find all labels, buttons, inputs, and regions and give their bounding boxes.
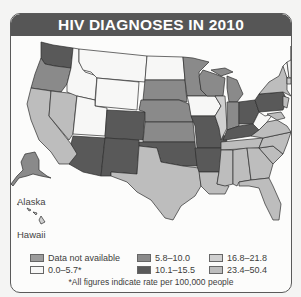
state-NE (139, 100, 193, 122)
legend-item-r4: 23.4–50.4 (209, 265, 267, 275)
map-card: HIV DIAGNOSES IN 2010 (10, 13, 292, 293)
legend-swatch (30, 266, 44, 274)
legend-swatch (137, 254, 151, 262)
legend-label: Data not available (48, 253, 120, 263)
state-WY (95, 78, 139, 110)
legend-label: 23.4–50.4 (227, 265, 267, 275)
alaska-label: Alaska (17, 196, 46, 207)
legend-item-r3: 16.8–21.8 (209, 253, 267, 263)
legend-label: 0.0–5.7* (48, 265, 82, 275)
legend-item-r1: 5.8–10.0 (137, 253, 190, 263)
legend-swatch (209, 254, 223, 262)
state-IA (187, 96, 221, 116)
state-SD (143, 80, 187, 102)
state-PA (255, 92, 287, 112)
state-AK (11, 152, 51, 186)
legend-swatch (30, 254, 44, 262)
state-AR (195, 148, 223, 172)
legend-item-na: Data not available (30, 253, 120, 263)
us-map: Alaska Hawaii (11, 36, 291, 241)
legend-label: 10.1–15.5 (155, 265, 195, 275)
hawaii-label: Hawaii (17, 229, 46, 240)
title-bar: HIV DIAGNOSES IN 2010 (11, 14, 291, 36)
state-ND (145, 56, 185, 80)
state-KS (143, 122, 195, 142)
state-CO (105, 110, 145, 140)
state-FL (239, 178, 281, 220)
footnote: *All figures indicate rate per 100,000 p… (11, 277, 291, 287)
state-NM (101, 138, 139, 176)
state-HI (17, 204, 45, 224)
legend-label: 5.8–10.0 (155, 253, 190, 263)
state-MA (287, 78, 291, 84)
legend-item-r2: 10.1–15.5 (137, 265, 195, 275)
legend-label: 16.8–21.8 (227, 253, 267, 263)
legend-item-r0: 0.0–5.7* (30, 265, 82, 275)
state-IN (227, 102, 239, 130)
map-title: HIV DIAGNOSES IN 2010 (58, 16, 244, 34)
legend-swatch (137, 266, 151, 274)
legend-swatch (209, 266, 223, 274)
state-NJ (283, 96, 289, 108)
